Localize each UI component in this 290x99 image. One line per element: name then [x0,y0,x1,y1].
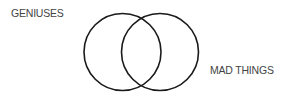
venn-circle-geniuses [84,14,161,91]
venn-diagram: GENIUSES MAD THINGS [0,0,290,99]
label-mad-things: MAD THINGS [210,64,274,76]
label-geniuses: GENIUSES [11,7,64,19]
venn-circle-mad-things [122,14,199,91]
